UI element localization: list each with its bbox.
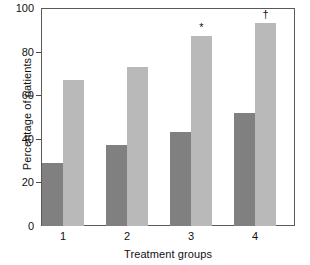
y-tick-label-100: 100: [8, 3, 34, 13]
y-tick-label-40: 40: [8, 134, 34, 144]
bar-group-4-series-1: [234, 113, 255, 226]
bar-group-3-series-1: [170, 132, 191, 226]
bar-chart-figure: Percentage of patients 100 80 60 40 20 0…: [0, 0, 310, 265]
bar-group-2-series-2: [127, 67, 148, 226]
bar-group-2-series-1: [106, 145, 127, 226]
significance-dagger: †: [255, 9, 277, 20]
y-axis-tick-labels: 100 80 60 40 20 0: [0, 0, 34, 265]
x-axis-tick-labels: 1 2 3 4: [41, 230, 295, 246]
y-tick-label-80: 80: [8, 47, 34, 57]
bar-group-4-series-2: [255, 23, 276, 226]
y-tick-label-60: 60: [8, 90, 34, 100]
x-tick-label-3: 3: [176, 230, 206, 242]
x-tick-label-4: 4: [240, 230, 270, 242]
x-axis-title: Treatment groups: [41, 248, 295, 260]
bar-group-3-series-2: [191, 36, 212, 226]
plot-area: [41, 8, 295, 226]
bar-group-1-series-2: [63, 80, 84, 226]
x-tick-label-1: 1: [48, 230, 78, 242]
x-tick-label-2: 2: [112, 230, 142, 242]
bar-group-1-series-1: [42, 163, 63, 226]
y-tick-label-20: 20: [8, 177, 34, 187]
y-tick-label-0: 0: [8, 221, 34, 231]
significance-asterisk: *: [191, 22, 213, 33]
